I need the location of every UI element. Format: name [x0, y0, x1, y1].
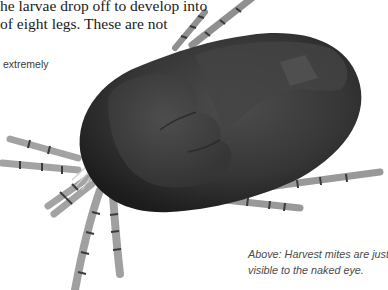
- caption-line-2: visible to the naked eye.: [248, 262, 388, 278]
- caption-line-1: Above: Harvest mites are just: [248, 246, 388, 262]
- body-line-1: he larvae drop off to develop into: [0, 0, 207, 15]
- side-text-fragment: extremely: [3, 58, 49, 70]
- body-paragraph: he larvae drop off to develop into of ei…: [0, 0, 207, 33]
- body-line-2: of eight legs. These are not: [0, 15, 207, 33]
- figure-caption: Above: Harvest mites are just visible to…: [248, 246, 388, 278]
- book-page: he larvae drop off to develop into of ei…: [0, 0, 388, 290]
